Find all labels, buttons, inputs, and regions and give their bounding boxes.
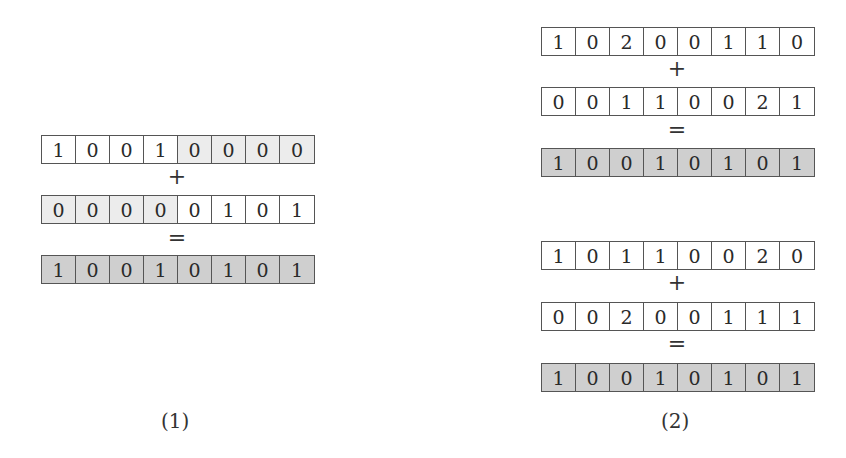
operand-b-row: 00000101 <box>41 195 315 224</box>
digit-cell: 0 <box>246 136 280 163</box>
digit-cell: 1 <box>780 149 814 176</box>
digit-cell: 2 <box>610 28 644 55</box>
digit-cell: 0 <box>178 256 212 283</box>
digit-cell: 1 <box>780 364 814 391</box>
digit-cell: 1 <box>42 136 76 163</box>
digit-cell: 1 <box>42 256 76 283</box>
digit-cell: 2 <box>746 242 780 269</box>
result-row: 10010101 <box>541 363 815 392</box>
caption-2: (2) <box>661 409 689 433</box>
digit-cell: 1 <box>542 149 576 176</box>
digit-cell: 1 <box>712 364 746 391</box>
digit-cell: 1 <box>644 149 678 176</box>
digit-cell: 0 <box>576 149 610 176</box>
digit-cell: 0 <box>780 242 814 269</box>
digit-cell: 0 <box>280 136 314 163</box>
equals-sign: = <box>657 333 697 355</box>
result-row: 10010101 <box>41 255 315 284</box>
digit-cell: 0 <box>678 364 712 391</box>
digit-cell: 0 <box>678 28 712 55</box>
digit-cell: 0 <box>110 136 144 163</box>
digit-cell: 0 <box>576 28 610 55</box>
digit-cell: 0 <box>610 364 644 391</box>
digit-cell: 0 <box>712 88 746 115</box>
digit-cell: 1 <box>610 242 644 269</box>
digit-cell: 0 <box>542 303 576 330</box>
digit-cell: 0 <box>576 303 610 330</box>
digit-cell: 1 <box>746 303 780 330</box>
digit-cell: 0 <box>178 136 212 163</box>
plus-sign: + <box>657 58 697 80</box>
plus-sign: + <box>157 166 197 188</box>
digit-cell: 0 <box>42 196 76 223</box>
digit-cell: 0 <box>644 303 678 330</box>
caption-1: (1) <box>161 409 189 433</box>
digit-cell: 1 <box>280 196 314 223</box>
digit-cell: 1 <box>610 88 644 115</box>
digit-cell: 0 <box>246 196 280 223</box>
digit-cell: 0 <box>76 136 110 163</box>
digit-cell: 0 <box>678 242 712 269</box>
digit-cell: 0 <box>610 149 644 176</box>
digit-cell: 0 <box>678 303 712 330</box>
digit-cell: 0 <box>644 28 678 55</box>
digit-cell: 1 <box>746 28 780 55</box>
digit-cell: 1 <box>644 242 678 269</box>
result-row: 10010101 <box>541 148 815 177</box>
operand-a-row: 10200110 <box>541 27 815 56</box>
digit-cell: 1 <box>712 28 746 55</box>
digit-cell: 1 <box>542 28 576 55</box>
digit-cell: 0 <box>178 196 212 223</box>
digit-cell: 0 <box>246 256 280 283</box>
digit-cell: 0 <box>712 242 746 269</box>
equals-sign: = <box>157 227 197 249</box>
operand-b-row: 00110021 <box>541 87 815 116</box>
digit-cell: 0 <box>746 364 780 391</box>
digit-cell: 1 <box>780 303 814 330</box>
digit-cell: 0 <box>542 88 576 115</box>
digit-cell: 0 <box>576 88 610 115</box>
digit-cell: 0 <box>110 196 144 223</box>
digit-cell: 1 <box>542 364 576 391</box>
digit-cell: 0 <box>576 242 610 269</box>
digit-cell: 0 <box>746 149 780 176</box>
digit-cell: 2 <box>610 303 644 330</box>
digit-cell: 0 <box>110 256 144 283</box>
digit-cell: 0 <box>76 196 110 223</box>
digit-cell: 1 <box>712 149 746 176</box>
digit-cell: 0 <box>76 256 110 283</box>
digit-cell: 1 <box>212 256 246 283</box>
digit-cell: 1 <box>780 88 814 115</box>
operand-a-row: 10110020 <box>541 241 815 270</box>
digit-cell: 1 <box>144 256 178 283</box>
plus-sign: + <box>657 272 697 294</box>
digit-cell: 0 <box>780 28 814 55</box>
digit-cell: 0 <box>678 88 712 115</box>
digit-cell: 1 <box>280 256 314 283</box>
digit-cell: 1 <box>712 303 746 330</box>
digit-cell: 1 <box>212 196 246 223</box>
digit-cell: 0 <box>212 136 246 163</box>
digit-cell: 1 <box>144 136 178 163</box>
equals-sign: = <box>657 119 697 141</box>
digit-cell: 1 <box>644 364 678 391</box>
digit-cell: 1 <box>644 88 678 115</box>
operand-a-row: 10010000 <box>41 135 315 164</box>
digit-cell: 2 <box>746 88 780 115</box>
digit-cell: 0 <box>144 196 178 223</box>
digit-cell: 0 <box>576 364 610 391</box>
operand-b-row: 00200111 <box>541 302 815 331</box>
digit-cell: 0 <box>678 149 712 176</box>
digit-cell: 1 <box>542 242 576 269</box>
